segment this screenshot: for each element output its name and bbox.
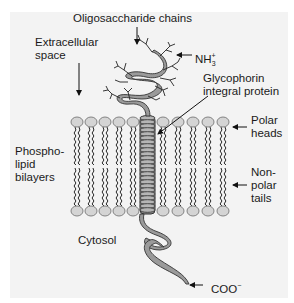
lipid-tail [92,168,94,206]
polar-head [127,206,139,216]
label-oligosaccharide-chains: Oligosaccharide chains [73,12,192,25]
polar-head [202,206,214,216]
lipid-tail [190,168,192,206]
lipid-tail [220,168,222,206]
lipid-tail [209,127,211,165]
polar-head [157,206,169,216]
label-polar-heads: Polarheads [251,114,282,140]
polar-head [217,117,229,127]
lipid-tail [116,127,118,165]
lipid-tail [134,168,136,206]
lipid-tail [78,127,80,165]
lipid-tail [88,168,90,206]
oligosaccharide-branches [103,35,180,100]
lipid-tail [102,168,104,206]
polar-head [113,206,125,216]
polar-head [217,206,229,216]
polar-head [187,206,199,216]
polar-head [157,117,169,127]
lipid-tail [209,168,211,206]
label-glycophorin-integral-protein: Glycophorinintegral protein [203,72,279,98]
lipid-tail [205,168,207,206]
lipid-tail [134,127,136,165]
polar-head [99,117,111,127]
lipid-tail [205,127,207,165]
lipid-tail [74,168,76,206]
polar-head [99,206,111,216]
helix-coils [140,116,155,213]
polar-head [187,117,199,127]
lipid-tail [130,168,132,206]
helix-coil [140,208,155,213]
lipid-tail [194,168,196,206]
lipid-tail [130,127,132,165]
lipid-tail [116,168,118,206]
polar-head [85,117,97,127]
lipid-tail [175,127,177,165]
lipid-tail [220,127,222,165]
cytosol-ribbon [140,214,189,284]
lipid-tail [74,127,76,165]
lipid-tail [164,127,166,165]
polar-head [71,206,83,216]
polar-head [85,206,97,216]
polar-head [71,117,83,127]
lipid-tail [224,127,226,165]
label-cytosol: Cytosol [78,234,116,247]
lipid-tail [88,127,90,165]
polar-head [113,117,125,127]
label-extracellular-space: Extracellularspace [35,36,98,62]
lipid-tail [224,168,226,206]
lipid-tail [92,127,94,165]
polar-head [202,117,214,127]
arrow-glycophorin [158,96,208,134]
label-phospholipid-bilayers: Phospho-lipidbilayers [15,145,64,184]
extracellular-ribbon [117,50,167,116]
lipid-tail [194,127,196,165]
lipid-tail [106,127,108,165]
lipid-tail [102,127,104,165]
label-nonpolar-tails: Non-polartails [251,166,277,205]
lipid-tail [175,168,177,206]
lipid-tail [179,168,181,206]
lipid-tail [120,168,122,206]
lipid-tail [160,168,162,206]
lipid-tail [120,127,122,165]
label-nh3: NH3+ [195,49,216,70]
polar-head [172,206,184,216]
lipid-tail [190,127,192,165]
lipid-tail [164,168,166,206]
lipid-tail [78,168,80,206]
polar-head [127,117,139,127]
lipid-tail [179,127,181,165]
lipid-tail [106,168,108,206]
label-coo: COO− [211,279,241,296]
